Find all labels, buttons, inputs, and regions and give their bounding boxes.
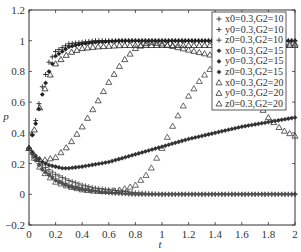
legend-entry: y0=0.3,G2=10 xyxy=(225,24,284,35)
x-tick-label: 0.8 xyxy=(129,228,143,240)
x-tick-label: 1.2 xyxy=(182,228,196,240)
x-tick-label: 0.6 xyxy=(102,228,116,240)
x-tick-label: 0.2 xyxy=(49,228,63,240)
x-tick-label: 1.4 xyxy=(208,228,222,240)
y-tick-label: 0 xyxy=(20,188,26,200)
legend-entry: z0=0.3,G2=20 xyxy=(225,98,283,109)
legend-entry: x0=0.3,G2=20 xyxy=(225,77,284,88)
x-tick-label: 0.4 xyxy=(75,228,89,240)
x-tick-label: 1.8 xyxy=(262,228,276,240)
x-tick-label: 0 xyxy=(26,228,32,240)
series-y0=0.3,G2=10 xyxy=(27,146,298,197)
y-tick-label: 1 xyxy=(20,35,26,47)
y-tick-label: 0.8 xyxy=(11,65,25,77)
y-tick-label: −0.2 xyxy=(5,219,25,231)
y-tick-label: 0.6 xyxy=(11,96,25,108)
legend-entry: x0=0.3,G2=10 xyxy=(225,13,284,24)
legend-entry: y0=0.3,G2=20 xyxy=(225,87,284,98)
y-tick-label: 1.2 xyxy=(11,4,25,16)
series-z0=0.3,G2=15 xyxy=(27,115,298,170)
series-y0=0.3,G2=15 xyxy=(27,146,298,197)
legend-entry: z0=0.3,G2=15 xyxy=(225,66,283,77)
legend: x0=0.3,G2=10y0=0.3,G2=10z0=0.3,G2=10x0=0… xyxy=(212,12,286,110)
series-z0=0.3,G2=10 xyxy=(27,146,298,197)
y-axis-label: p xyxy=(2,110,9,122)
x-tick-label: 1.6 xyxy=(235,228,249,240)
legend-entry: z0=0.3,G2=10 xyxy=(225,34,283,45)
x-tick-label: 2 xyxy=(292,228,298,240)
legend-entry: x0=0.3,G2=15 xyxy=(225,45,284,56)
legend-entry: y0=0.3,G2=15 xyxy=(225,55,284,66)
y-tick-label: 0.2 xyxy=(11,158,25,170)
chart-canvas: 00.20.40.60.811.21.41.61.82−0.200.20.40.… xyxy=(0,0,301,252)
y-tick-label: 0.4 xyxy=(11,127,25,139)
